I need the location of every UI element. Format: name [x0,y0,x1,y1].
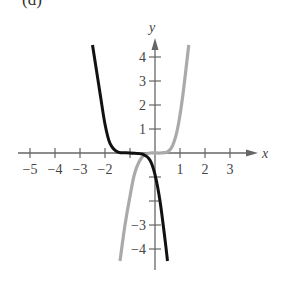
y-axis-label: y [147,20,156,35]
x-tick-label: 3 [227,162,234,177]
x-tick-label: −5 [23,162,38,177]
y-tick-label: 4 [139,50,146,65]
x-tick-label: −2 [98,162,113,177]
x-axis-label: x [261,146,269,161]
y-tick-label: −4 [131,242,146,257]
x-tick-label: 1 [177,162,184,177]
x-tick-label: −4 [48,162,63,177]
y-tick-label: 2 [139,98,146,113]
x-axis-arrow-icon [246,150,258,157]
y-tick-label: −3 [131,218,146,233]
chart-canvas: −5−4−3−21234321−3−4xy [0,0,292,284]
y-tick-label: 3 [139,74,146,89]
x-tick-label: 2 [202,162,209,177]
y-tick-label: 1 [139,122,146,137]
x-tick-label: −3 [73,162,88,177]
y-axis-arrow-icon [152,38,159,50]
tick-labels: −5−4−3−21234321−3−4xy [23,20,269,257]
